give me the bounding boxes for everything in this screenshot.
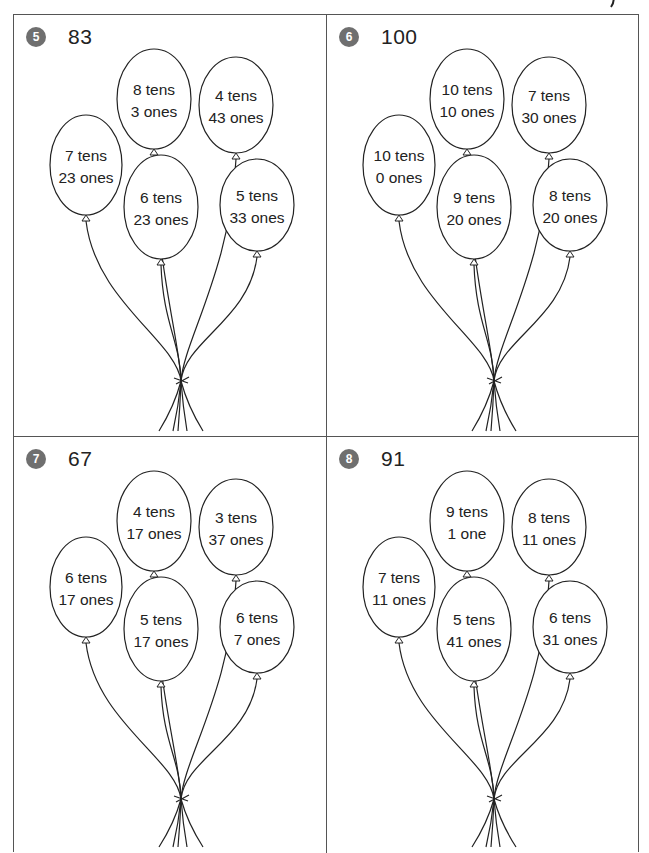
balloon-tens-label: 6 tens	[140, 189, 182, 206]
balloon-tens-label: 5 tens	[140, 611, 182, 628]
balloon-knot	[157, 259, 165, 265]
balloon-tens-label: 4 tens	[133, 503, 175, 520]
balloon-ones-label: 17 ones	[126, 525, 181, 542]
balloon: 9 tens20 ones	[437, 155, 511, 265]
balloon-knot	[566, 673, 574, 679]
balloon: 10 tens0 ones	[363, 115, 435, 221]
problem-5: 5837 tens23 ones8 tens3 ones4 tens43 one…	[14, 15, 327, 437]
balloon: 5 tens17 ones	[124, 577, 198, 687]
balloon-outline	[220, 159, 294, 251]
balloon-outline	[437, 577, 511, 681]
balloon: 6 tens17 ones	[50, 537, 122, 643]
page-corner-mark	[609, 0, 623, 8]
string-end	[181, 799, 203, 847]
balloon-ones-label: 43 ones	[208, 109, 263, 126]
balloon-string	[161, 265, 181, 381]
balloon-tens-label: 5 tens	[236, 187, 278, 204]
balloon: 6 tens7 ones	[220, 581, 294, 679]
balloon-outline	[430, 471, 504, 571]
balloon-tens-label: 7 tens	[65, 147, 107, 164]
balloon-knot	[150, 571, 158, 577]
balloon-ones-label: 33 ones	[229, 209, 284, 226]
balloon-ones-label: 23 ones	[133, 211, 188, 228]
balloon: 6 tens23 ones	[124, 155, 198, 265]
balloon-outline	[199, 57, 273, 153]
balloon-outline	[363, 537, 435, 637]
string-end	[181, 799, 187, 847]
string-end	[181, 381, 187, 431]
balloon: 5 tens41 ones	[437, 577, 511, 687]
balloon: 4 tens17 ones	[117, 471, 191, 577]
balloon: 8 tens3 ones	[117, 49, 191, 155]
balloon: 7 tens11 ones	[363, 537, 435, 643]
balloon-tens-label: 8 tens	[549, 187, 591, 204]
balloon-ones-label: 30 ones	[521, 109, 576, 126]
balloon-knot	[566, 251, 574, 257]
balloon-outline	[117, 471, 191, 571]
balloon-ones-label: 7 ones	[234, 631, 281, 648]
balloon-ones-label: 11 ones	[522, 531, 576, 548]
balloon-knot	[395, 637, 403, 643]
balloon-string	[494, 679, 570, 799]
balloon-outline	[533, 581, 607, 673]
balloon-ones-label: 1 one	[448, 525, 487, 542]
balloon-outline	[50, 537, 122, 637]
balloon-tens-label: 6 tens	[236, 609, 278, 626]
balloon-tens-label: 9 tens	[453, 189, 495, 206]
problem-8: 8917 tens11 ones9 tens1 one8 tens11 ones…	[327, 437, 638, 853]
balloon-knot	[82, 215, 90, 221]
balloon-outline	[430, 49, 504, 149]
balloon-knot	[470, 681, 478, 687]
balloon-bunch: 7 tens23 ones8 tens3 ones4 tens43 ones6 …	[14, 15, 327, 437]
balloon-outline	[199, 479, 273, 575]
balloon-outline	[437, 155, 511, 259]
balloon-outline	[533, 159, 607, 251]
balloon-knot	[545, 153, 553, 159]
balloon: 5 tens33 ones	[220, 159, 294, 257]
balloon-ones-label: 0 ones	[376, 169, 423, 186]
balloon-knot	[463, 149, 471, 155]
balloon-string	[474, 265, 494, 381]
balloon: 8 tens20 ones	[533, 159, 607, 257]
balloon-tens-label: 7 tens	[528, 87, 570, 104]
worksheet-grid: 5837 tens23 ones8 tens3 ones4 tens43 one…	[13, 14, 639, 852]
balloon-tens-label: 5 tens	[453, 611, 495, 628]
balloon-tens-label: 4 tens	[215, 87, 257, 104]
balloon-knot	[395, 215, 403, 221]
balloon-tens-label: 9 tens	[446, 503, 488, 520]
balloon: 4 tens43 ones	[199, 57, 273, 159]
balloon-string	[161, 687, 181, 799]
balloon: 9 tens1 one	[430, 471, 504, 577]
balloon-tens-label: 10 tens	[374, 147, 425, 164]
balloon-knot	[150, 149, 158, 155]
balloon-knot	[545, 575, 553, 581]
balloon-tens-label: 10 tens	[442, 81, 493, 98]
balloon: 3 tens37 ones	[199, 479, 273, 581]
string-end	[494, 799, 500, 847]
string-end	[494, 381, 500, 431]
balloon-tens-label: 3 tens	[215, 509, 257, 526]
balloon-knot	[157, 681, 165, 687]
balloon-tens-label: 7 tens	[378, 569, 420, 586]
balloon-outline	[124, 155, 198, 259]
balloon: 7 tens30 ones	[512, 57, 586, 159]
balloon-knot	[232, 575, 240, 581]
balloon-knot	[253, 251, 261, 257]
balloon-tens-label: 6 tens	[549, 609, 591, 626]
string-end	[494, 799, 516, 847]
balloon-outline	[50, 115, 122, 215]
balloon-knot	[463, 571, 471, 577]
balloon-outline	[512, 57, 586, 153]
balloon-bunch: 7 tens11 ones9 tens1 one8 tens11 ones5 t…	[327, 437, 638, 853]
balloon: 7 tens23 ones	[50, 115, 122, 221]
balloon-ones-label: 31 ones	[542, 631, 597, 648]
balloon-knot	[253, 673, 261, 679]
balloon-outline	[220, 581, 294, 673]
balloon-outline	[512, 479, 586, 575]
balloon-outline	[117, 49, 191, 149]
balloon-ones-label: 20 ones	[446, 211, 501, 228]
balloon-outline	[124, 577, 198, 681]
balloon-ones-label: 11 ones	[372, 591, 426, 608]
problem-6: 610010 tens0 ones10 tens10 ones7 tens30 …	[327, 15, 638, 437]
balloon-ones-label: 17 ones	[58, 591, 113, 608]
